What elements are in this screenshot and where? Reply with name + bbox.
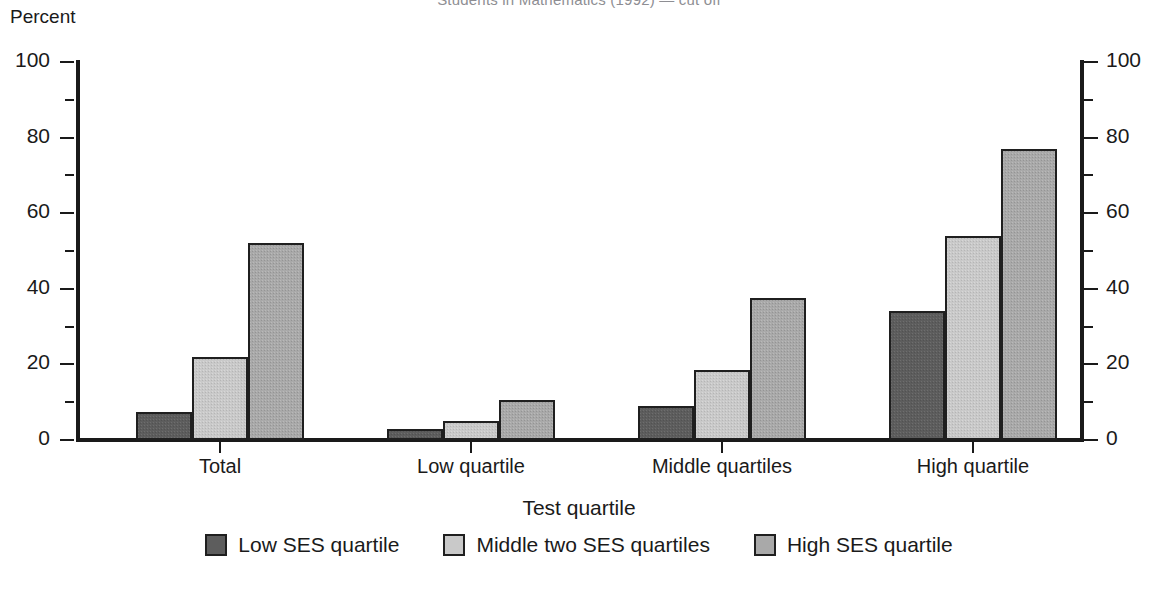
x-axis-label-total: Total — [199, 455, 241, 478]
y-axis-right-label-100: 100 — [1106, 48, 1141, 72]
bar-high-quartile-dark[interactable] — [889, 311, 945, 440]
y-axis-right-label-80: 80 — [1106, 124, 1129, 148]
y-axis-right-tick-0 — [1084, 439, 1098, 441]
y-axis-left-tick-100 — [60, 61, 74, 63]
bar-middle-quartiles-medium[interactable] — [750, 298, 806, 440]
bar-total-medium[interactable] — [248, 243, 304, 440]
y-axis-right-tick-10 — [1084, 401, 1093, 403]
y-axis-left-tick-30 — [65, 326, 74, 328]
legend-item-medium[interactable]: High SES quartile — [754, 533, 953, 557]
y-axis-left-label-80: 80 — [0, 124, 50, 148]
bar-high-quartile-light[interactable] — [945, 236, 1001, 440]
y-axis-left-tick-50 — [65, 250, 74, 252]
y-axis-left-label-60: 60 — [0, 199, 50, 223]
y-axis-right-tick-80 — [1084, 137, 1098, 139]
y-axis-left-tick-60 — [60, 212, 74, 214]
y-axis-right-tick-70 — [1084, 174, 1093, 176]
bar-high-quartile-medium[interactable] — [1001, 149, 1057, 440]
y-axis-left-tick-40 — [60, 288, 74, 290]
y-axis-right-tick-90 — [1084, 99, 1093, 101]
legend-label: High SES quartile — [787, 533, 953, 557]
y-axis-right-label-20: 20 — [1106, 350, 1129, 374]
y-axis-left-label-20: 20 — [0, 350, 50, 374]
y-axis-left-tick-90 — [65, 99, 74, 101]
bar-low-quartile-light[interactable] — [443, 421, 499, 440]
x-axis-tick-2 — [721, 442, 723, 453]
x-axis-label-middle-quartiles: Middle quartiles — [652, 455, 792, 478]
chart-root: Students in Mathematics (1992) — cut off… — [0, 0, 1158, 590]
legend-swatch-icon-light — [443, 534, 465, 556]
bar-middle-quartiles-dark[interactable] — [638, 406, 694, 440]
bar-low-quartile-dark[interactable] — [387, 429, 443, 440]
legend-swatch-icon-medium — [754, 534, 776, 556]
legend-label: Low SES quartile — [238, 533, 399, 557]
bar-low-quartile-medium[interactable] — [499, 400, 555, 440]
y-axis-title: Percent — [10, 6, 75, 28]
x-axis-tick-1 — [470, 442, 472, 453]
legend-label: Middle two SES quartiles — [476, 533, 709, 557]
y-axis-left-label-100: 100 — [0, 48, 50, 72]
y-axis-left-tick-20 — [60, 363, 74, 365]
y-axis-left-tick-0 — [60, 439, 74, 441]
x-axis-label-high-quartile: High quartile — [917, 455, 1029, 478]
y-axis-right-tick-60 — [1084, 212, 1098, 214]
y-axis-right-tick-40 — [1084, 288, 1098, 290]
legend-item-dark[interactable]: Low SES quartile — [205, 533, 399, 557]
x-axis-label-low-quartile: Low quartile — [417, 455, 525, 478]
y-axis-left-tick-80 — [60, 137, 74, 139]
bar-total-light[interactable] — [192, 357, 248, 440]
y-axis-right-tick-50 — [1084, 250, 1093, 252]
legend-item-light[interactable]: Middle two SES quartiles — [443, 533, 709, 557]
y-axis-left-label-40: 40 — [0, 275, 50, 299]
y-axis-left-tick-70 — [65, 174, 74, 176]
y-axis-right-label-40: 40 — [1106, 275, 1129, 299]
x-axis-tick-0 — [219, 442, 221, 453]
x-axis-tick-3 — [972, 442, 974, 453]
y-axis-right-tick-30 — [1084, 326, 1093, 328]
y-axis-right-label-0: 0 — [1106, 426, 1118, 450]
bar-total-dark[interactable] — [136, 412, 192, 440]
y-axis-left-tick-10 — [65, 401, 74, 403]
clipped-chart-title: Students in Mathematics (1992) — cut off — [0, 0, 1158, 8]
legend-swatch-icon-dark — [205, 534, 227, 556]
plot-area — [78, 62, 1082, 440]
bar-middle-quartiles-light[interactable] — [694, 370, 750, 440]
chart-legend: Low SES quartileMiddle two SES quartiles… — [0, 533, 1158, 557]
y-axis-left-label-0: 0 — [0, 426, 50, 450]
x-axis-title: Test quartile — [0, 496, 1158, 520]
y-axis-right-tick-100 — [1084, 61, 1098, 63]
y-axis-right-tick-20 — [1084, 363, 1098, 365]
y-axis-right-label-60: 60 — [1106, 199, 1129, 223]
